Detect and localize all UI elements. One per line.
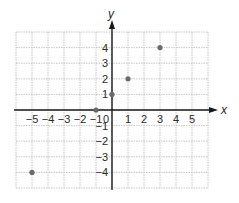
plotted-point — [109, 92, 114, 97]
x-axis-arrow-icon — [209, 107, 218, 113]
y-tick-label: 1 — [102, 88, 108, 100]
plotted-point — [125, 76, 130, 81]
plotted-point — [157, 45, 162, 50]
axes: x y 0 — [14, 7, 228, 190]
plotted-point — [93, 107, 98, 112]
x-tick-label: −3 — [58, 113, 71, 125]
x-tick-label: −4 — [42, 113, 55, 125]
y-tick-label: −4 — [95, 166, 108, 178]
x-tick-label: 2 — [141, 113, 147, 125]
x-tick-label: −2 — [74, 113, 87, 125]
x-tick-label: −5 — [26, 113, 39, 125]
y-tick-label: 3 — [102, 57, 108, 69]
coordinate-plane: x y 0 −5−4−3−2−112345 4321−1−2−3−4 — [0, 0, 239, 203]
x-tick-label: 5 — [189, 113, 195, 125]
x-axis-label: x — [220, 103, 228, 117]
x-tick-label: 4 — [173, 113, 179, 125]
y-tick-label: 2 — [102, 73, 108, 85]
x-tick-labels: −5−4−3−2−112345 — [26, 113, 195, 125]
y-tick-label: −2 — [95, 135, 108, 147]
y-tick-label: 4 — [102, 42, 108, 54]
y-axis-label: y — [107, 7, 115, 21]
y-tick-label: −1 — [95, 120, 108, 132]
y-axis-arrow-icon — [109, 20, 115, 29]
y-tick-label: −3 — [95, 151, 108, 163]
x-tick-label: 3 — [157, 113, 163, 125]
x-tick-label: 1 — [125, 113, 131, 125]
plotted-point — [29, 170, 34, 175]
